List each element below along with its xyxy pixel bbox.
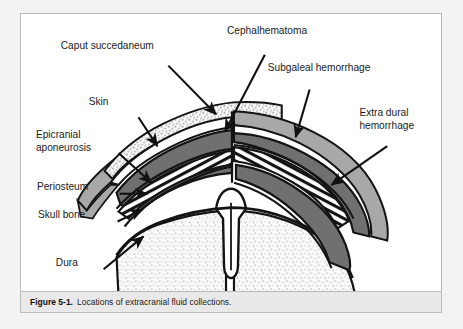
- label-skull-bone: Skull bone: [38, 209, 86, 220]
- figure-caption-number: Figure 5-1.: [30, 297, 73, 307]
- label-subgaleal-hemorrhage: Subgaleal hemorrhage: [268, 62, 371, 73]
- label-skin: Skin: [89, 96, 109, 107]
- label-epicranial-aponeurosis-line1: Epicranial: [36, 129, 81, 140]
- label-cephalhematoma: Cephalhematoma: [227, 25, 307, 36]
- figure-caption-bar: Figure 5-1. Locations of extracranial fl…: [20, 291, 442, 313]
- label-epicranial-aponeurosis-line2: aponeurosis: [36, 142, 91, 153]
- label-periosteum: Periosteum: [37, 181, 88, 192]
- label-caput-succedaneum: Caput succedaneum: [61, 40, 154, 51]
- label-extra-dural-hemorrhage-line2: hemorrhage: [359, 120, 414, 131]
- figure-caption-text: Locations of extracranial fluid collecti…: [77, 297, 232, 307]
- leader-caput-succedaneum: [168, 66, 216, 115]
- label-extra-dural-hemorrhage-line1: Extra dural: [359, 107, 408, 118]
- anatomy-group: [78, 102, 388, 296]
- label-dura: Dura: [56, 257, 78, 268]
- figure-frame: Caput succedaneum Cephalhematoma Subgale…: [20, 13, 442, 298]
- cranial-cross-section-diagram: Caput succedaneum Cephalhematoma Subgale…: [21, 14, 441, 297]
